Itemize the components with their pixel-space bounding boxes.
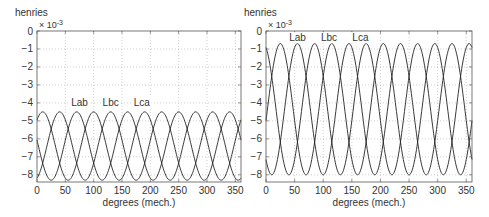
x-tick-label: 100 xyxy=(315,185,332,196)
x-tick-label: 250 xyxy=(401,185,418,196)
y-tick-label: −2 xyxy=(22,61,34,72)
series-lca xyxy=(37,112,241,180)
x-tick-label: 350 xyxy=(458,185,475,196)
annotation-lbc: Lbc xyxy=(103,97,119,108)
y-tick-label: −3 xyxy=(251,79,263,90)
curves xyxy=(37,112,241,180)
y-tick-label: −4 xyxy=(22,97,34,108)
x-tick-label: 200 xyxy=(372,185,389,196)
y-tick-label: −7 xyxy=(22,151,34,162)
y-tick-label: 0 xyxy=(256,26,262,37)
x-tick-label: 300 xyxy=(199,185,216,196)
y-tick-label: −4 xyxy=(251,97,263,108)
x-axis-label: degrees (mech.) xyxy=(103,197,176,208)
series-lab xyxy=(266,44,472,175)
curves xyxy=(266,44,472,175)
y-tick-label: −8 xyxy=(251,169,263,180)
chart-canvas: 0501001502002503003500−1−2−3−4−5−6−7−8he… xyxy=(0,0,489,217)
annotation-lab: Lab xyxy=(289,32,306,43)
y-axis-label: henries xyxy=(15,7,48,18)
x-tick-label: 300 xyxy=(429,185,446,196)
y-multiplier: × 10-3 xyxy=(39,19,63,30)
y-tick-label: −7 xyxy=(251,151,263,162)
x-tick-label: 150 xyxy=(343,185,360,196)
y-axis-label: henries xyxy=(244,7,277,18)
annotation-lca: Lca xyxy=(134,97,151,108)
y-tick-label: −1 xyxy=(251,43,263,54)
annotation-lca: Lca xyxy=(352,32,369,43)
y-tick-label: −6 xyxy=(22,133,34,144)
y-tick-label: −6 xyxy=(251,133,263,144)
x-tick-label: 100 xyxy=(85,185,102,196)
y-multiplier: × 10-3 xyxy=(268,19,292,30)
x-tick-label: 0 xyxy=(263,185,269,196)
x-tick-label: 50 xyxy=(289,185,301,196)
y-tick-label: −1 xyxy=(22,43,34,54)
y-tick-label: −8 xyxy=(22,169,34,180)
y-tick-label: 0 xyxy=(27,26,33,37)
annotation-lbc: Lbc xyxy=(321,32,337,43)
x-tick-label: 0 xyxy=(34,185,40,196)
x-tick-label: 350 xyxy=(227,185,244,196)
x-tick-label: 250 xyxy=(170,185,187,196)
x-axis-label: degrees (mech.) xyxy=(333,197,406,208)
y-tick-label: −5 xyxy=(22,115,34,126)
annotation-lab: Lab xyxy=(71,97,88,108)
x-tick-label: 150 xyxy=(114,185,131,196)
y-tick-label: −5 xyxy=(251,115,263,126)
chart-panel-1: 0501001502002503003500−1−2−3−4−5−6−7−8he… xyxy=(15,7,244,208)
x-tick-label: 200 xyxy=(142,185,159,196)
chart-panel-2: 0501001502002503003500−1−2−3−4−5−6−7−8he… xyxy=(244,7,475,208)
y-tick-label: −3 xyxy=(22,79,34,90)
y-tick-label: −2 xyxy=(251,61,263,72)
x-tick-label: 50 xyxy=(60,185,72,196)
